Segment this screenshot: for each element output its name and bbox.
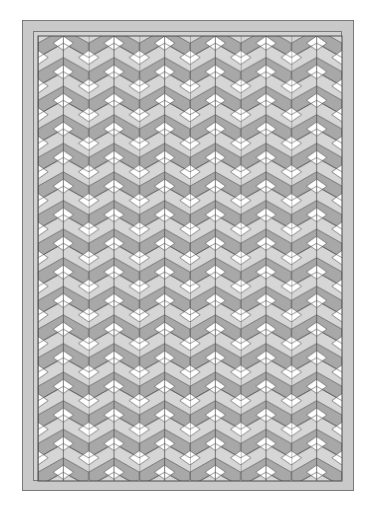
- quilt-image: [0, 0, 375, 512]
- quilt-field: [38, 36, 342, 481]
